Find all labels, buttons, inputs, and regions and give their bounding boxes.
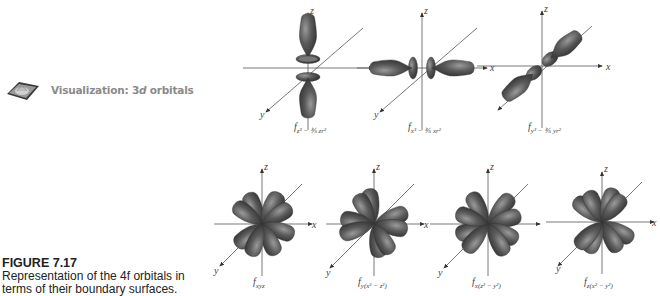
orbital-fy-x2-z2-diagram: z x y [312, 160, 432, 280]
svg-text:y: y [259, 109, 265, 120]
svg-text:z: z [603, 163, 608, 174]
orbital-visualization-icon [5, 78, 41, 102]
orbital-panel-fz-x2-y2: z x y fz(x² − y²) [538, 160, 660, 280]
svg-text:y: y [373, 109, 379, 120]
svg-text:x: x [651, 217, 657, 228]
visualization-link[interactable]: Visualization: 3d orbitals [5, 78, 194, 102]
orbital-panel-fy-x2-z2: z x y fy(x² − z²) [312, 160, 432, 280]
svg-text:z: z [423, 5, 428, 16]
svg-text:y: y [213, 265, 219, 276]
orbital-fxyz-diagram: z x y [200, 160, 320, 280]
orbital-panel-fy3: z x fy³ − ⅗ yr² [472, 0, 612, 125]
svg-text:z: z [263, 161, 268, 172]
svg-text:z: z [375, 161, 380, 172]
orbital-fy3-diagram: z x [472, 0, 612, 125]
orbital-fx-z2-y2-diagram: z y [424, 160, 544, 280]
svg-text:y: y [555, 263, 561, 274]
orbital-panel-fx3: z x y fx³ − ⅗ xr² [352, 0, 492, 125]
figure-caption: FIGURE 7.17 Representation of the 4f orb… [2, 257, 185, 296]
orbital-label-fy-x2-z2: fy(x² − z²) [358, 276, 387, 290]
svg-text:x: x [605, 61, 611, 72]
orbital-panel-fxyz: z x y fxyz [200, 160, 320, 280]
svg-text:y: y [437, 267, 443, 278]
orbital-label-fz-x2-y2: fz(x² − y²) [584, 276, 613, 290]
svg-text:z: z [489, 161, 494, 172]
orbital-fz-x2-y2-diagram: z x y [538, 160, 660, 280]
svg-text:z: z [309, 5, 314, 16]
orbital-fx3-diagram: z x y [352, 0, 492, 125]
orbital-label-fxyz: fxyz [253, 276, 265, 290]
svg-text:z: z [543, 3, 548, 14]
orbital-label-fx3: fx³ − ⅗ xr² [408, 121, 441, 135]
visualization-label: Visualization: 3d orbitals [51, 84, 194, 96]
orbital-label-fz3: fz³ − ⅗ zr² [294, 121, 326, 135]
orbital-label-fy3: fy³ − ⅗ yr² [528, 121, 561, 135]
caption-line-2: terms of their boundary surfaces. [2, 283, 185, 296]
orbital-panel-fx-z2-y2: z y fx(z² − y²) [424, 160, 544, 280]
svg-text:y: y [325, 267, 331, 278]
orbital-label-fx-z2-y2: fx(z² − y²) [472, 276, 501, 290]
